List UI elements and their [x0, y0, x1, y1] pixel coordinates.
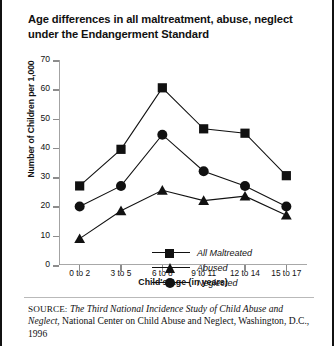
- x-tick-mark: [286, 265, 288, 271]
- legend-square-marker-icon: [152, 247, 190, 259]
- x-tick-mark: [79, 265, 81, 271]
- figure-title: Age differences in all maltreatment, abu…: [28, 12, 314, 41]
- y-tick-label: 10: [24, 230, 50, 240]
- legend-circle-marker-icon: [152, 277, 190, 289]
- chart-container: Number of Children per 1,000 01020304050…: [2, 52, 334, 289]
- y-tick-label: 60: [24, 83, 50, 93]
- source-divider: [24, 297, 314, 298]
- source-label: SOURCE:: [28, 304, 68, 314]
- chart-svg: [59, 60, 307, 265]
- legend-triangle-marker-icon: [152, 262, 190, 274]
- legend-item: Abused: [152, 260, 252, 275]
- y-tick-label: 20: [24, 200, 50, 210]
- figure-frame: Age differences in all maltreatment, abu…: [0, 0, 334, 346]
- source-note: SOURCE: The Third National Incidence Stu…: [28, 303, 314, 340]
- y-tick-label: 0: [24, 259, 50, 269]
- plot-area: [59, 60, 307, 265]
- legend-label: Neglected: [190, 278, 238, 288]
- y-tick-label: 30: [24, 171, 50, 181]
- x-tick-mark: [120, 265, 122, 271]
- legend-label: All Maltreated: [190, 248, 252, 258]
- y-tick-label: 50: [24, 113, 50, 123]
- y-tick-label: 40: [24, 142, 50, 152]
- y-tick-mark: [53, 265, 59, 267]
- source-publisher: , National Center on Child Abuse and Neg…: [28, 315, 309, 338]
- legend-label: Abused: [190, 263, 228, 273]
- legend-item: All Maltreated: [152, 245, 252, 260]
- legend-item: Neglected: [152, 275, 252, 290]
- y-tick-label: 70: [24, 54, 50, 64]
- chart-legend: All MaltreatedAbusedNeglected: [152, 245, 252, 290]
